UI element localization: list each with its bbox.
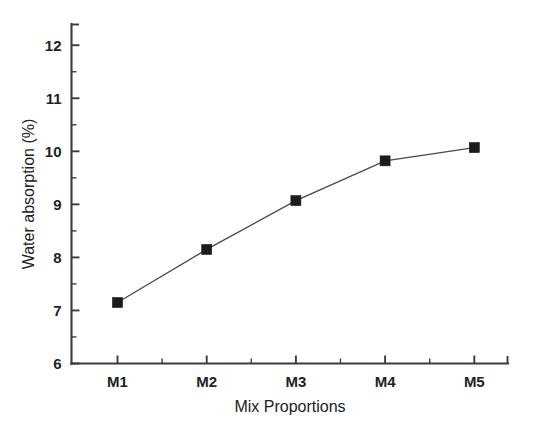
data-point-marker — [113, 298, 123, 308]
x-axis-title: Mix Proportions — [234, 398, 345, 415]
y-tick-label: 10 — [45, 143, 62, 160]
y-tick-label: 6 — [53, 355, 61, 372]
y-tick-label: 12 — [45, 37, 62, 54]
data-point-marker — [469, 143, 479, 153]
data-point-marker — [291, 196, 301, 206]
x-tick-label: M4 — [375, 373, 396, 390]
data-point-marker — [380, 156, 390, 166]
y-tick-label: 9 — [53, 196, 61, 213]
y-tick-label: 8 — [53, 249, 61, 266]
data-point-marker — [202, 244, 212, 254]
y-tick-label: 7 — [53, 302, 61, 319]
y-axis-title: Water absorption (%) — [20, 119, 37, 270]
x-tick-label: M2 — [196, 373, 217, 390]
x-tick-label: M3 — [285, 373, 306, 390]
chart-figure: 6789101112 M1M2M3M4M5 Mix Proportions Wa… — [0, 0, 542, 430]
x-tick-label: M5 — [464, 373, 485, 390]
y-tick-label: 11 — [46, 90, 62, 107]
water-absorption-line-chart: 6789101112 M1M2M3M4M5 Mix Proportions Wa… — [0, 0, 542, 430]
x-tick-label: M1 — [107, 373, 128, 390]
